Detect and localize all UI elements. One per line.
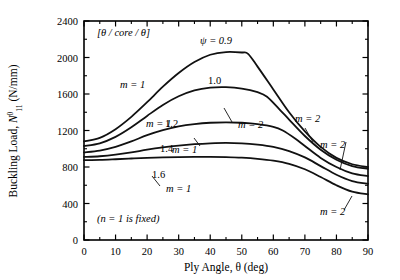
annotation-m1-a: m = 1 xyxy=(120,79,145,90)
x-axis-title: Ply Angle, θ (deg) xyxy=(184,261,268,274)
x-tick-label: 80 xyxy=(331,246,342,257)
annotation-m2-a: m = 2 xyxy=(238,119,264,130)
x-tick-label: 90 xyxy=(363,246,374,257)
y-tick-label: 1200 xyxy=(57,126,78,137)
y-tick-label: 2000 xyxy=(57,53,78,64)
y-tick-label: 800 xyxy=(62,162,78,173)
y-tick-label: 1600 xyxy=(57,89,78,100)
y-axis-title-units: (N/mm) xyxy=(7,64,20,104)
annotation-m2-b: m = 2 xyxy=(295,113,321,124)
buckling-load-chart: 04008001200160020002400 0102030405060708… xyxy=(0,0,400,280)
x-tick-label: 30 xyxy=(173,246,184,257)
x-tick-label: 70 xyxy=(300,246,311,257)
y-axis-title-superscript: 0 xyxy=(6,111,15,115)
y-axis-title-main: Buckling Load, xyxy=(7,123,20,197)
x-tick-label: 20 xyxy=(142,246,153,257)
annotation-stacking-sequence: [θ / core / θ] xyxy=(97,27,150,38)
annotation-m2-d: m = 2 xyxy=(320,206,346,217)
annotation-n-fixed-note: (n = 1 is fixed) xyxy=(97,213,160,225)
x-tick-label: 40 xyxy=(205,246,216,257)
y-tick-label: 400 xyxy=(62,199,78,210)
annotation-psi-09: ψ = 0.9 xyxy=(200,35,233,46)
x-tick-label: 0 xyxy=(81,246,86,257)
annotation-psi-16: 1.6 xyxy=(152,169,165,180)
x-tick-label: 60 xyxy=(268,246,279,257)
y-tick-label: 0 xyxy=(73,235,78,246)
annotation-m2-c: m = 2 xyxy=(320,139,346,150)
y-tick-label: 2400 xyxy=(57,16,78,27)
annotation-m1-d: m = 1 xyxy=(166,183,191,194)
x-tick-label: 50 xyxy=(237,246,248,257)
x-tick-label: 10 xyxy=(110,246,121,257)
annotation-psi-10: 1.0 xyxy=(208,75,221,86)
annotation-m1-c: m = 1 xyxy=(172,144,197,155)
annotation-m1-b: m = 1 xyxy=(146,118,171,129)
